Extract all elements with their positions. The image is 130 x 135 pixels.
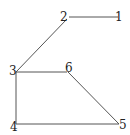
edge-6-5 (68, 72, 119, 124)
node-label-6: 6 (65, 61, 73, 75)
node-label-3: 3 (9, 64, 17, 78)
node-label-5: 5 (119, 118, 127, 132)
graph-diagram: 1 2 3 4 5 6 (0, 0, 130, 135)
node-label-1: 1 (115, 10, 123, 24)
node-label-4: 4 (10, 120, 18, 134)
node-label-2: 2 (60, 10, 68, 24)
edge-2-3 (16, 19, 67, 72)
